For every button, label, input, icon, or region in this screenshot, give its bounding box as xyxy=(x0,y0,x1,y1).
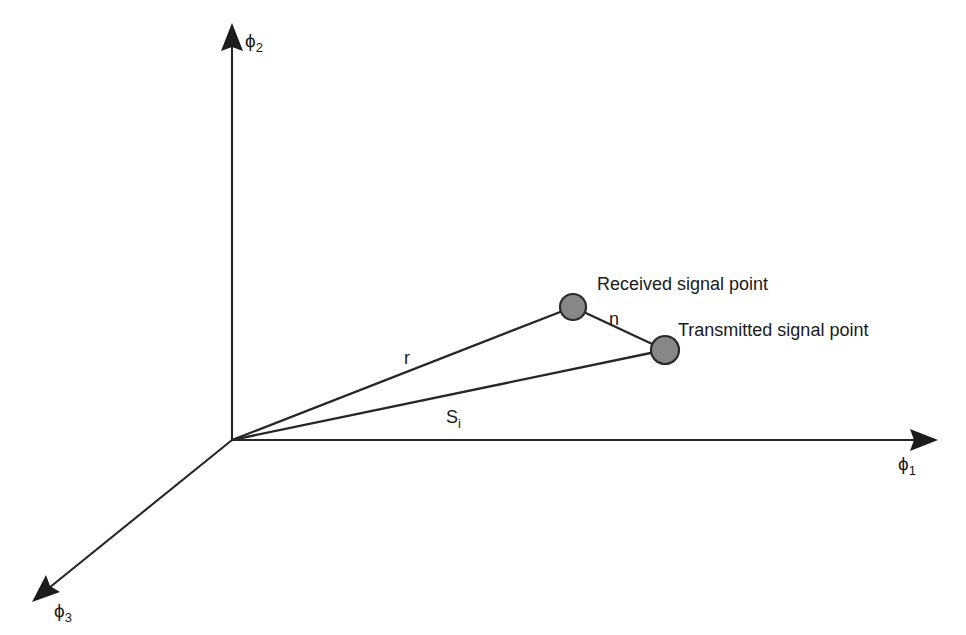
axis-label-phi1: ϕ1 xyxy=(898,453,916,478)
si-vector-label-sub: i xyxy=(458,416,461,431)
axis-phi2 xyxy=(221,23,243,440)
received-signal-point-marker xyxy=(560,294,586,320)
n-vector-label: n xyxy=(609,309,619,329)
axis-phi1-arrowhead xyxy=(910,429,938,451)
axis-phi1 xyxy=(232,429,938,451)
r-vector-line xyxy=(232,307,573,440)
axis-label-phi3-sub: 3 xyxy=(65,610,72,625)
axis-phi3-arrowhead xyxy=(32,575,60,602)
r-vector-label: r xyxy=(404,348,410,368)
axis-phi3-line xyxy=(44,440,232,592)
axis-label-phi2-base: ϕ xyxy=(245,30,256,51)
received-signal-point-label: Received signal point xyxy=(597,274,768,294)
axis-label-phi1-base: ϕ xyxy=(898,453,909,474)
si-vector-label: Si xyxy=(446,407,461,431)
axis-label-phi2-sub: 2 xyxy=(256,40,263,55)
diagram-canvas: ϕ1 ϕ2 ϕ3 r Si n Received signal point Tr… xyxy=(0,0,966,635)
transmitted-signal-point-marker xyxy=(651,336,679,364)
axis-phi3 xyxy=(32,440,232,602)
axis-label-phi1-sub: 1 xyxy=(909,463,916,478)
signal-space-diagram: ϕ1 ϕ2 ϕ3 r Si n Received signal point Tr… xyxy=(0,0,966,635)
si-vector-label-base: S xyxy=(446,407,458,427)
axis-label-phi3: ϕ3 xyxy=(54,600,72,625)
axis-phi2-arrowhead xyxy=(221,23,243,51)
axis-label-phi2: ϕ2 xyxy=(245,30,263,55)
axis-label-phi3-base: ϕ xyxy=(54,600,65,621)
transmitted-signal-point-label: Transmitted signal point xyxy=(678,320,868,340)
